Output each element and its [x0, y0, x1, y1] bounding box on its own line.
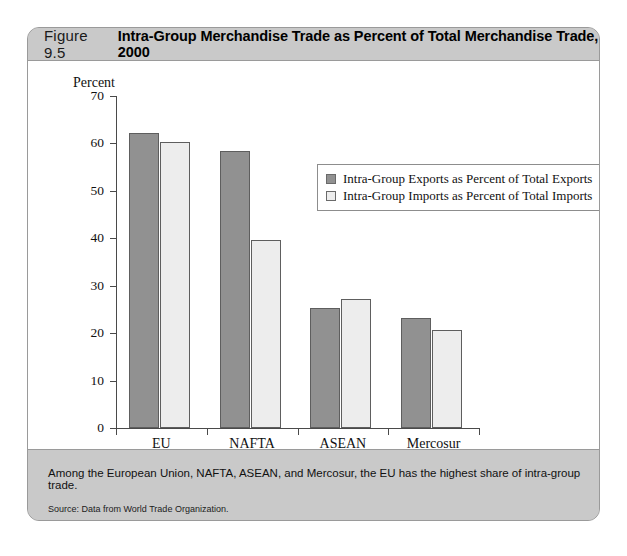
x-tick-2 [298, 428, 299, 435]
y-tick-label-50: 50 [78, 183, 104, 199]
figure-frame: Figure 9.5 Intra-Group Merchandise Trade… [27, 27, 600, 521]
y-tick-label-20: 20 [78, 325, 104, 341]
chart-legend: Intra-Group Exports as Percent of Total … [317, 164, 600, 211]
x-tick-3 [388, 428, 389, 435]
y-tick-label-30: 30 [78, 278, 104, 294]
bar-nafta-imports [251, 240, 281, 428]
plot-panel: Percent 010203040506070 EUNAFTAASEANMerc… [28, 61, 600, 450]
legend-swatch-imports-icon [326, 191, 336, 201]
bar-eu-exports [129, 133, 159, 428]
y-tick-label-60: 60 [78, 135, 104, 151]
y-tick-50 [110, 191, 117, 192]
y-tick-label-40: 40 [78, 230, 104, 246]
bar-eu-imports [160, 142, 190, 428]
y-tick-20 [110, 333, 117, 334]
legend-swatch-exports-icon [326, 174, 336, 184]
x-tick-end [479, 428, 480, 435]
figure-source: Source: Data from World Trade Organizati… [48, 504, 581, 514]
x-tick-0 [116, 428, 117, 435]
y-tick-70 [110, 96, 117, 97]
bar-nafta-exports [220, 151, 250, 428]
y-tick-40 [110, 238, 117, 239]
y-tick-60 [110, 143, 117, 144]
x-tick-1 [207, 428, 208, 435]
bar-asean-imports [341, 299, 371, 428]
y-tick-label-0: 0 [78, 420, 104, 436]
y-axis-line [116, 96, 117, 429]
y-tick-label-10: 10 [78, 373, 104, 389]
bar-mercosur-exports [401, 318, 431, 428]
y-tick-30 [110, 286, 117, 287]
caption-band: Among the European Union, NAFTA, ASEAN, … [28, 450, 600, 521]
y-tick-10 [110, 381, 117, 382]
figure-title: Intra-Group Merchandise Trade as Percent… [118, 28, 599, 60]
y-tick-label-70: 70 [78, 88, 104, 104]
figure-header: Figure 9.5 Intra-Group Merchandise Trade… [28, 28, 599, 61]
figure-caption: Among the European Union, NAFTA, ASEAN, … [48, 467, 581, 491]
figure-number: Figure 9.5 [44, 27, 109, 61]
bar-mercosur-imports [432, 330, 462, 428]
legend-item-exports: Intra-Group Exports as Percent of Total … [326, 170, 592, 187]
legend-label-exports: Intra-Group Exports as Percent of Total … [343, 171, 592, 187]
bar-asean-exports [310, 308, 340, 428]
legend-label-imports: Intra-Group Imports as Percent of Total … [343, 188, 592, 204]
legend-item-imports: Intra-Group Imports as Percent of Total … [326, 187, 592, 204]
